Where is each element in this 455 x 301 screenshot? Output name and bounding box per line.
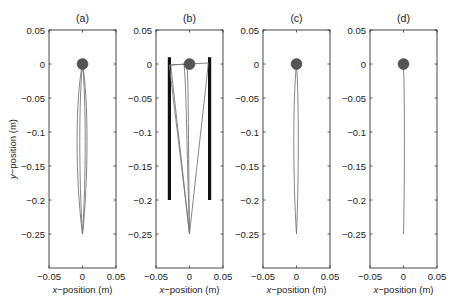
y-tick-label: −0.05 [128, 93, 152, 104]
y-tick-label: 0.05 [241, 25, 260, 36]
start-marker [184, 59, 195, 70]
y-tick-label: 0 [254, 59, 259, 70]
panel-title: (d) [397, 12, 410, 24]
x-tick-label: 0 [80, 271, 85, 282]
y-tick-label: −0.1 [133, 127, 152, 138]
trajectory-path-5 [188, 63, 209, 234]
x-tick-label: 0 [294, 271, 299, 282]
panel-title: (a) [76, 12, 89, 24]
start-marker [291, 59, 302, 70]
x-axis-label: x−position (m) [159, 284, 220, 295]
trajectory-path-2 [80, 64, 83, 234]
panel-d: (d)0.050−0.05−0.1−0.15−0.2−0.25−0.0500.0… [342, 12, 446, 295]
y-tick-label: −0.25 [235, 229, 259, 240]
panel-c: (c)0.050−0.05−0.1−0.15−0.2−0.25−0.0500.0… [235, 12, 339, 295]
y-tick-label: −0.25 [342, 229, 366, 240]
start-marker [77, 59, 88, 70]
y-tick-label: −0.1 [347, 127, 366, 138]
x-tick-label: 0.05 [214, 271, 233, 282]
trajectory-path-1 [404, 64, 405, 234]
y-tick-label: −0.2 [240, 195, 259, 206]
y-tick-label: −0.25 [21, 229, 45, 240]
y-tick-label: 0.05 [348, 25, 367, 36]
panel-b: (b)0.050−0.05−0.1−0.15−0.2−0.25−0.0500.0… [128, 12, 232, 295]
panel-title: (b) [183, 12, 196, 24]
y-tick-label: −0.05 [235, 93, 259, 104]
y-axis-label: y−position (m) [7, 119, 18, 180]
y-tick-label: −0.2 [133, 195, 152, 206]
x-tick-label: 0.05 [428, 271, 447, 282]
y-tick-label: −0.1 [240, 127, 259, 138]
y-tick-label: −0.15 [235, 161, 259, 172]
panel-title: (c) [290, 12, 302, 24]
y-tick-label: 0.05 [134, 25, 153, 36]
y-tick-label: −0.25 [128, 229, 152, 240]
y-tick-label: −0.2 [26, 195, 45, 206]
x-tick-label: −0.05 [251, 271, 275, 282]
x-axis-label: x−position (m) [266, 284, 327, 295]
y-tick-label: 0 [40, 59, 45, 70]
y-tick-label: −0.15 [21, 161, 45, 172]
y-tick-label: −0.1 [26, 127, 45, 138]
trajectory-path-1 [294, 64, 297, 234]
y-tick-label: −0.05 [21, 93, 45, 104]
x-tick-label: −0.05 [358, 271, 382, 282]
x-tick-label: −0.05 [37, 271, 61, 282]
y-tick-label: 0 [147, 59, 152, 70]
y-tick-label: −0.05 [342, 93, 366, 104]
trajectory-path-2 [297, 64, 299, 234]
x-tick-label: 0 [401, 271, 406, 282]
x-tick-label: 0.05 [107, 271, 126, 282]
x-axis-label: x−position (m) [52, 284, 113, 295]
x-tick-label: −0.05 [144, 271, 168, 282]
figure: (a)0.050−0.05−0.1−0.15−0.2−0.25−0.0500.0… [0, 0, 455, 301]
x-axis-label: x−position (m) [373, 284, 434, 295]
trajectory-path-2 [171, 64, 190, 234]
y-tick-label: 0 [361, 59, 366, 70]
panel-a: (a)0.050−0.05−0.1−0.15−0.2−0.25−0.0500.0… [7, 12, 125, 295]
start-marker [398, 59, 409, 70]
y-tick-label: 0.05 [27, 25, 46, 36]
y-tick-label: −0.2 [347, 195, 366, 206]
x-tick-label: 0 [187, 271, 192, 282]
x-tick-label: 0.05 [321, 271, 340, 282]
y-tick-label: −0.15 [342, 161, 366, 172]
y-tick-label: −0.15 [128, 161, 152, 172]
